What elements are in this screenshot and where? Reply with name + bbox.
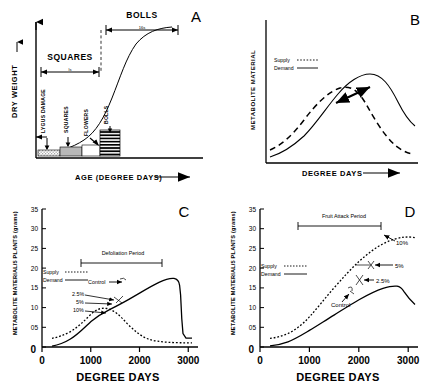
panel-b-crossing-arrow-line <box>336 87 370 103</box>
panel-b-chart: B METABOLITE MATERIAL DEGREE DAYS Supply… <box>218 0 436 195</box>
panel-a-bar-lygus-damage <box>38 150 60 156</box>
panel-c-annotation-5-arrow <box>85 303 112 304</box>
panel-d-ytick-7: 35 <box>249 206 257 213</box>
panel-b-legend: Supply Demand <box>274 57 318 71</box>
panel-a-arrowhead-squares <box>66 143 71 148</box>
panel-d-ytick-3: 15 <box>249 284 257 291</box>
panel-c-annotation-control: Control <box>88 279 105 285</box>
panel-d-x-ticks: 0 1000 2000 3000 <box>257 347 420 366</box>
panel-d-x-title: DEGREE DAYS <box>296 371 379 383</box>
panel-a-y-title: DRY WEIGHT <box>10 64 19 118</box>
panel-d-cluster-mark-control <box>348 287 354 294</box>
panel-d-chart: D 0 05 10 15 20 25 30 35 <box>218 195 436 389</box>
panel-d-ytick-2: 10 <box>249 304 257 311</box>
panel-c-ytick-2: 10 <box>31 304 39 311</box>
panel-c-chart: C 0 05 10 15 20 25 30 35 <box>0 195 218 389</box>
panel-d-annotations: 10% 5% 2.5% Control <box>331 235 409 308</box>
panel-d-supply-curve <box>270 237 415 338</box>
panel-a-chart: A DRY WEIGHT AGE (DEGREE DAYS) LY <box>0 0 218 195</box>
panel-a-bracket-bolls-tick: 16s <box>139 25 145 30</box>
panel-c-ytick-5: 25 <box>31 245 39 252</box>
panel-b-legend-supply-label: Supply <box>274 57 290 63</box>
panel-c-letter: C <box>179 203 190 220</box>
panel-a-bracket-squares-label: SQUARES <box>47 52 93 62</box>
panel-d-bracket: Fruit Attack Period <box>298 213 381 230</box>
panel-d-ytick-6: 30 <box>249 225 257 232</box>
panel-d-annotation-control: Control <box>331 302 350 308</box>
panel-c-x-ticks: 0 1000 2000 3000 <box>39 347 200 366</box>
panel-a-arrowhead-lygus <box>45 146 50 151</box>
panel-a-bar-bolls <box>100 130 120 156</box>
panel-d-legend-supply-label: Supply <box>261 263 277 269</box>
panel-d-ytick-4: 20 <box>249 265 257 272</box>
panel-c-annotation-10: 10% <box>73 307 84 313</box>
figure-container: A DRY WEIGHT AGE (DEGREE DAYS) LY <box>0 0 436 389</box>
panel-d-y-ticks: 0 05 10 15 20 25 30 35 <box>248 206 264 356</box>
panel-c-xtick-0: 0 <box>39 355 45 366</box>
panel-b-demand-curve <box>270 74 415 157</box>
panel-c-ytick-6: 30 <box>31 225 39 232</box>
panel-c-ytick-0: 0 <box>30 344 36 355</box>
panel-c: C 0 05 10 15 20 25 30 35 <box>0 195 218 389</box>
panel-d-annotation-control-arrow <box>342 294 349 302</box>
panel-c-ytick-4: 20 <box>31 265 39 272</box>
panel-a-bracket-bolls-label: BOLLS <box>126 10 157 20</box>
panel-d-cluster-mark-25 <box>356 275 363 285</box>
panel-b-x-title: DEGREE DAYS <box>302 169 363 178</box>
panel-c-annotation-5: 5% <box>76 299 84 305</box>
panel-c-cluster-mark-2 <box>114 296 123 303</box>
panel-b-supply-curve <box>270 87 414 154</box>
panel-c-cluster-mark-1 <box>120 278 126 280</box>
panel-d-ytick-0: 0 <box>248 344 254 355</box>
panel-d-ytick-5: 25 <box>249 245 257 252</box>
panel-c-annotation-25: 2.5% <box>72 291 84 297</box>
panel-c-legend: Supply Demand <box>43 269 88 283</box>
panel-b-legend-demand-label: Demand <box>274 65 294 71</box>
panel-a-bracket-squares-tick: ls <box>69 67 72 72</box>
panel-c-legend-demand-label: Demand <box>43 277 63 283</box>
panel-c-xtick-2: 2000 <box>128 355 151 366</box>
panel-a-letter: A <box>191 8 201 25</box>
panel-a-stage-label-bolls: BOLLS <box>103 105 112 133</box>
panel-a-bar-flowers <box>82 145 100 156</box>
panel-c-x-title: DEGREE DAYS <box>76 371 159 383</box>
panel-c-annotations: Control 2.5% 5% 10% <box>72 278 126 313</box>
panel-d-annotation-25: 2.5% <box>376 278 390 284</box>
panel-c-xtick-1: 1000 <box>80 355 103 366</box>
panel-d-xtick-2: 2000 <box>348 355 371 366</box>
panel-a-stage-label-squares: SQUARES <box>63 106 70 147</box>
panel-a-stage-label-lygus-damage: LYGUS DAMAGE <box>36 89 49 150</box>
panel-d-xtick-0: 0 <box>257 355 263 366</box>
panel-c-bracket-label: Defoliation Period <box>102 250 145 256</box>
panel-d-ytick-1: 05 <box>249 324 257 331</box>
panel-c-bracket: Defoliation Period <box>81 250 162 267</box>
panel-c-legend-supply-label: Supply <box>43 269 59 275</box>
panel-c-y-title: METABOLITE MATERIAL/5 PLANTS (grams) <box>12 211 18 335</box>
panel-d-annotation-10-arrow <box>384 235 395 241</box>
panel-d-y-title: METABOLITE MATERIAL/5 PLANTS (grams) <box>230 211 236 335</box>
panel-a: A DRY WEIGHT AGE (DEGREE DAYS) LY <box>0 0 218 195</box>
panel-d-xtick-1: 1000 <box>298 355 321 366</box>
panel-d-letter: D <box>405 203 416 220</box>
panel-a-stage-text-squares: SQUARES <box>63 106 69 133</box>
panel-a-stage-text-flowers: FLOWERS <box>83 109 89 136</box>
panel-c-ytick-1: 05 <box>31 324 39 331</box>
panel-c-annotation-25-arrow <box>85 295 114 300</box>
panel-c-ytick-7: 35 <box>31 206 39 213</box>
panel-b: B METABOLITE MATERIAL DEGREE DAYS Supply… <box>218 0 436 195</box>
panel-d-annotation-10: 10% <box>396 240 409 246</box>
panel-a-stage-text-lygus: LYGUS DAMAGE <box>40 89 46 133</box>
panel-b-y-title: METABOLITE MATERIAL <box>250 50 256 130</box>
panel-a-bracket-bolls: BOLLS 16s <box>106 10 178 35</box>
panel-d-legend-demand-label: Demand <box>261 271 281 277</box>
panel-a-bar-squares <box>60 147 82 156</box>
panel-d-annotation-5: 5% <box>395 263 404 269</box>
panel-a-stage-text-bolls: BOLLS <box>103 105 109 124</box>
panel-c-xtick-3: 3000 <box>177 355 200 366</box>
panel-d: D 0 05 10 15 20 25 30 35 <box>218 195 436 389</box>
panel-d-legend: Supply Demand <box>261 263 307 277</box>
panel-a-bracket-squares: SQUARES ls <box>41 52 99 77</box>
panel-a-x-title: AGE (DEGREE DAYS) <box>75 173 162 182</box>
panel-c-ytick-3: 15 <box>31 284 39 291</box>
panel-b-crossing-arrow <box>336 87 370 103</box>
